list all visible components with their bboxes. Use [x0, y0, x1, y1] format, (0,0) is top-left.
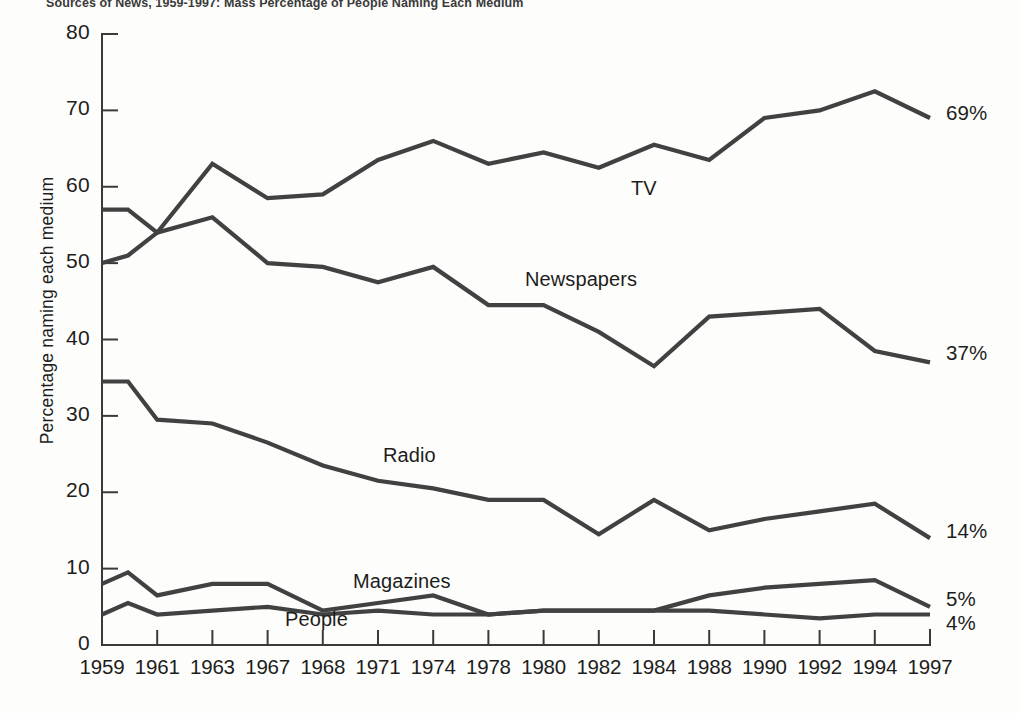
- end-label-radio: 14%: [946, 519, 987, 543]
- y-tick-label: 20: [44, 478, 90, 502]
- series-label-tv: TV: [631, 177, 657, 200]
- data-series-group: [102, 91, 930, 618]
- line-chart: Sources of News, 1959-1997: Mass Percent…: [0, 0, 1020, 713]
- x-tick-label: 1997: [895, 655, 965, 679]
- plot-area: [0, 0, 1020, 713]
- y-tick-label: 10: [44, 555, 90, 579]
- x-axis-ticks: [102, 630, 930, 645]
- series-line-people: [102, 603, 930, 618]
- series-label-people: People: [285, 608, 348, 631]
- y-axis-title: Percentage naming each medium: [37, 146, 58, 476]
- y-tick-label: 80: [44, 20, 90, 44]
- series-label-newspapers: Newspapers: [525, 268, 637, 291]
- y-axis-ticks: [102, 110, 118, 645]
- end-label-tv: 69%: [946, 101, 987, 125]
- series-line-tv: [102, 91, 930, 263]
- end-label-magazines: 5%: [946, 587, 976, 611]
- end-label-people: 4%: [946, 611, 976, 635]
- series-line-radio: [102, 382, 930, 539]
- series-label-magazines: Magazines: [353, 570, 451, 593]
- end-label-newspapers: 37%: [946, 341, 987, 365]
- y-tick-label: 0: [44, 631, 90, 655]
- series-line-newspapers: [102, 210, 930, 367]
- axis-lines: [102, 34, 930, 645]
- series-label-radio: Radio: [383, 444, 436, 467]
- y-tick-label: 70: [44, 96, 90, 120]
- axes: [102, 34, 930, 645]
